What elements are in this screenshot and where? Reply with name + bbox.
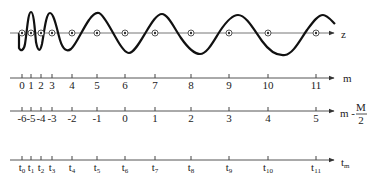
tick-label: 5	[94, 79, 100, 91]
sample-point-marker	[226, 30, 232, 36]
tick-label: 10	[263, 79, 275, 91]
tick-label: t7	[152, 161, 159, 173]
axis-label-m-minus-half-M: m -	[340, 107, 355, 119]
tick-label: 4	[69, 79, 75, 91]
tick-label: t2	[38, 161, 45, 173]
sample-point-marker	[265, 30, 271, 36]
tick-label: 4	[265, 112, 271, 124]
tick-label: -1	[92, 112, 101, 124]
z-axis-label: z	[341, 28, 346, 40]
diagram-canvas: z 01234567891011m-6-5-4-3-2-1012345m - M…	[0, 0, 372, 173]
tick-label: -2	[67, 112, 76, 124]
tick-label: t6	[122, 161, 129, 173]
tick-label: 9	[226, 79, 232, 91]
tick-label: 2	[188, 112, 194, 124]
tick-label: t9	[226, 161, 233, 173]
sample-point-marker	[94, 30, 100, 36]
tick-label: 1	[152, 112, 158, 124]
fraction-numerator: M	[356, 101, 366, 113]
tick-label: 3	[226, 112, 232, 124]
fraction-denominator: 2	[358, 114, 364, 126]
axis-label-m: m	[343, 72, 352, 84]
tick-label: t5	[94, 161, 101, 173]
tick-label: t1	[28, 161, 35, 173]
tick-label: 0	[19, 79, 25, 91]
sample-point-marker	[122, 30, 128, 36]
sample-point-marker	[38, 30, 44, 36]
sample-point-marker	[313, 30, 319, 36]
tick-label: 5	[313, 112, 319, 124]
tick-label: 1	[28, 79, 34, 91]
tick-label: 11	[311, 79, 322, 91]
tick-label: t8	[188, 161, 195, 173]
tick-label: t10	[263, 161, 274, 173]
index-axes: 01234567891011m-6-5-4-3-2-1012345m - M2t…	[10, 72, 367, 173]
tick-label: 6	[122, 79, 128, 91]
sample-point-marker	[28, 30, 34, 36]
tick-label: -5	[26, 112, 36, 124]
sample-point-marker	[69, 30, 75, 36]
tick-label: t4	[69, 161, 76, 173]
sample-point-marker	[19, 30, 25, 36]
sample-point-marker	[49, 30, 55, 36]
tick-label: 7	[152, 79, 158, 91]
tick-label: -3	[47, 112, 57, 124]
chirped-wave	[19, 12, 335, 55]
axis-label-tm: tm	[341, 156, 350, 170]
tick-label: 2	[38, 79, 44, 91]
tick-label: t3	[49, 161, 56, 173]
tick-label: t11	[311, 161, 321, 173]
sample-point-marker	[152, 30, 158, 36]
tick-label: 3	[49, 79, 55, 91]
tick-label: -4	[36, 112, 46, 124]
sample-point-marker	[188, 30, 194, 36]
tick-label: t0	[19, 161, 26, 173]
tick-label: 8	[188, 79, 194, 91]
tick-label: 0	[122, 112, 128, 124]
